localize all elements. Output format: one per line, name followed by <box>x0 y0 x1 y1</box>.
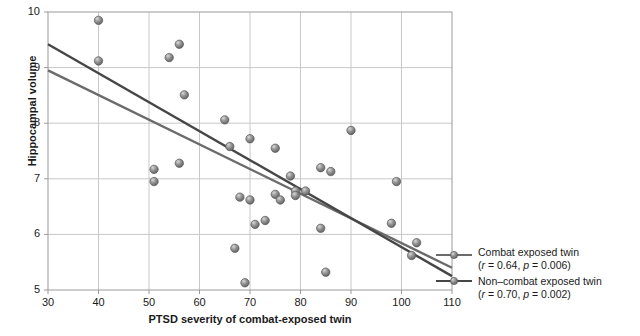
x-tick-label: 40 <box>79 297 119 308</box>
data-point <box>251 220 259 228</box>
data-point <box>246 196 254 204</box>
data-point <box>226 142 234 150</box>
legend-item-non-combat-exposed-twin: Non–combat exposed twin (r = 0.70, p = 0… <box>478 275 602 300</box>
legend-key-marker-0 <box>450 251 457 258</box>
x-tick-label: 50 <box>129 297 169 308</box>
y-axis-title: Hippocampal volume <box>26 36 38 186</box>
data-point <box>94 57 102 65</box>
data-point <box>412 239 420 247</box>
scatter-plot-figure: 1098765 30405060708090100110 Hippocampal… <box>0 0 640 336</box>
data-point <box>286 172 294 180</box>
data-point <box>291 191 299 199</box>
data-point <box>231 244 239 252</box>
x-tick-label: 30 <box>28 297 68 308</box>
chart-legend: Combat exposed twin (r = 0.64, p = 0.006… <box>478 246 602 304</box>
data-point <box>271 144 279 152</box>
data-point <box>175 159 183 167</box>
legend-line-keys <box>436 251 472 284</box>
legend-stat-non-combat: (r = 0.70, p = 0.002) <box>478 288 602 301</box>
data-points <box>94 16 421 287</box>
x-tick-label: 60 <box>180 297 220 308</box>
data-point <box>236 193 244 201</box>
data-point <box>180 91 188 99</box>
data-point <box>347 126 355 134</box>
data-point <box>150 177 158 185</box>
y-tick-label: 10 <box>10 6 40 17</box>
y-tick-label: 6 <box>10 228 40 239</box>
legend-label-non-combat: Non–combat exposed twin <box>478 275 602 288</box>
data-point <box>150 165 158 173</box>
data-point <box>327 167 335 175</box>
legend-key-marker-1 <box>450 277 457 284</box>
legend-label-combat: Combat exposed twin <box>478 246 602 259</box>
data-point <box>392 177 400 185</box>
data-point <box>221 116 229 124</box>
x-tick-label: 90 <box>331 297 371 308</box>
data-point <box>175 40 183 48</box>
y-tick-label: 5 <box>10 284 40 295</box>
data-point <box>165 53 173 61</box>
data-point <box>261 216 269 224</box>
data-point <box>94 16 102 24</box>
x-tick-label: 100 <box>382 297 422 308</box>
x-tick-label: 80 <box>281 297 321 308</box>
data-point <box>276 196 284 204</box>
x-axis-title: PTSD severity of combat-exposed twin <box>48 313 452 325</box>
data-point <box>387 219 395 227</box>
data-point <box>301 187 309 195</box>
data-point <box>317 224 325 232</box>
data-point <box>407 251 415 259</box>
axis-tick-marks <box>44 12 452 294</box>
legend-item-combat-exposed-twin: Combat exposed twin (r = 0.64, p = 0.006… <box>478 246 602 271</box>
legend-stat-combat: (r = 0.64, p = 0.006) <box>478 259 602 272</box>
gridlines <box>48 12 452 290</box>
data-point <box>241 279 249 287</box>
data-point <box>317 163 325 171</box>
data-point <box>322 268 330 276</box>
x-tick-label: 110 <box>432 297 472 308</box>
x-tick-label: 70 <box>230 297 270 308</box>
data-point <box>246 135 254 143</box>
